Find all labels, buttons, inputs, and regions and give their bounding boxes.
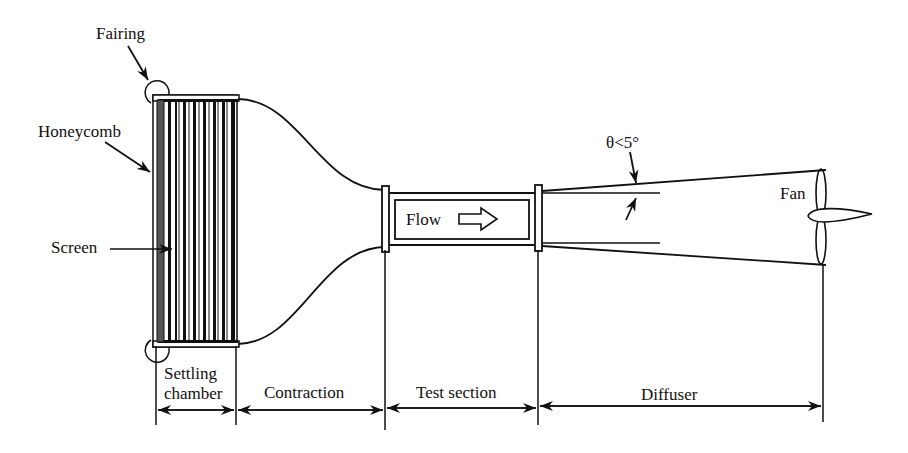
fairing-label: Fairing	[96, 24, 146, 43]
screen-label: Screen	[51, 238, 98, 257]
test-section: Flow	[382, 185, 542, 252]
settling-label-line2: chamber	[164, 384, 223, 403]
angle-arrow-top	[630, 152, 636, 183]
fan-label: Fan	[780, 184, 806, 203]
honeycomb-label: Honeycomb	[38, 122, 121, 141]
fan-hub-icon	[808, 209, 872, 222]
settling-label-line1: Settling	[164, 364, 217, 383]
diffuser-label: Diffuser	[641, 385, 698, 404]
fan: Fan	[780, 169, 872, 264]
screens	[168, 100, 235, 342]
flow-label: Flow	[406, 210, 442, 229]
settling-chamber	[145, 81, 239, 363]
wind-tunnel-diagram: Flow θ<5° Fan Fairing Honeycomb Screen	[0, 0, 908, 453]
contraction-label: Contraction	[264, 383, 345, 402]
test-section-label: Test section	[416, 383, 497, 402]
callouts: Fairing Honeycomb Screen	[38, 24, 172, 257]
contraction	[238, 99, 385, 344]
angle-label: θ<5°	[606, 133, 639, 152]
angle-arrow-bottom	[626, 198, 636, 220]
section-labels: Settling chamber Contraction Test sectio…	[164, 364, 698, 404]
